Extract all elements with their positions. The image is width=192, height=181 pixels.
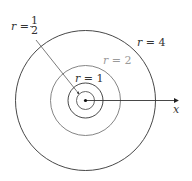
label-r-half: r = 1 2 [11,14,38,37]
label-r-2: r = 2 [103,54,131,67]
r-half-pointer [36,40,79,94]
x-axis-label: x [173,103,180,116]
svg-text:2: 2 [31,24,38,37]
svg-text:r =: r = [11,20,29,33]
polar-circles-diagram: x r = 1 2 r = 1 r = 2 r = 4 [0,0,192,181]
label-r-4: r = 4 [137,36,165,49]
origin-dot [84,99,87,102]
label-r-1: r = 1 [75,72,103,85]
